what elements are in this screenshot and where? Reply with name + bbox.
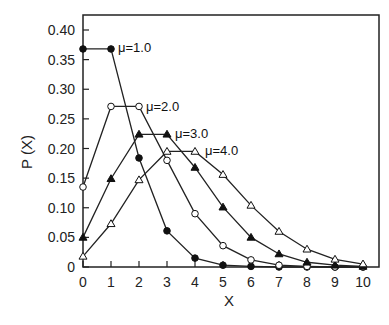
x-tick-label: 4 [191,274,199,290]
poisson-chart: 00.050.100.150.200.250.300.350.400123456… [0,0,389,325]
y-tick-label: 0.25 [48,111,75,127]
data-point [80,184,87,191]
data-point [107,175,115,182]
x-tick-label: 9 [331,274,339,290]
data-point [275,250,283,257]
y-tick-label: 0.10 [48,200,75,216]
x-tick-label: 10 [355,274,371,290]
data-point [220,242,227,249]
y-tick-label: 0.15 [48,170,75,186]
x-tick-label: 3 [163,274,171,290]
data-point [220,262,227,269]
y-tick-label: 0.20 [48,141,75,157]
data-point [107,220,115,227]
x-tick-label: 7 [275,274,283,290]
x-tick-label: 6 [247,274,255,290]
data-point [248,257,255,264]
series-label-mu3: μ=3.0 [175,126,208,141]
data-point [136,103,143,110]
series-2 [80,103,367,270]
data-point [136,155,143,162]
y-tick-label: 0.35 [48,52,75,68]
data-point [276,262,283,269]
data-point [80,46,87,53]
data-point [248,263,255,270]
data-point [164,157,171,164]
y-tick-label: 0.40 [48,22,75,38]
x-tick-label: 2 [135,274,143,290]
data-point [192,255,199,262]
y-tick-label: 0.30 [48,81,75,97]
y-tick-label: 0.05 [48,229,75,245]
x-tick-label: 5 [219,274,227,290]
x-tick-label: 1 [107,274,115,290]
series-label-mu1: μ=1.0 [118,40,151,55]
x-axis-label: X [224,292,234,309]
data-point [303,245,311,252]
y-axis-label: P (X) [18,135,35,169]
series-label-mu4: μ=4.0 [205,143,238,158]
data-point [108,103,115,110]
x-tick-label: 0 [79,274,87,290]
data-point [164,228,171,235]
series-label-mu2: μ=2.0 [146,99,179,114]
data-point [108,46,115,53]
x-tick-label: 8 [303,274,311,290]
data-point [192,210,199,217]
y-tick-label: 0 [67,259,75,275]
